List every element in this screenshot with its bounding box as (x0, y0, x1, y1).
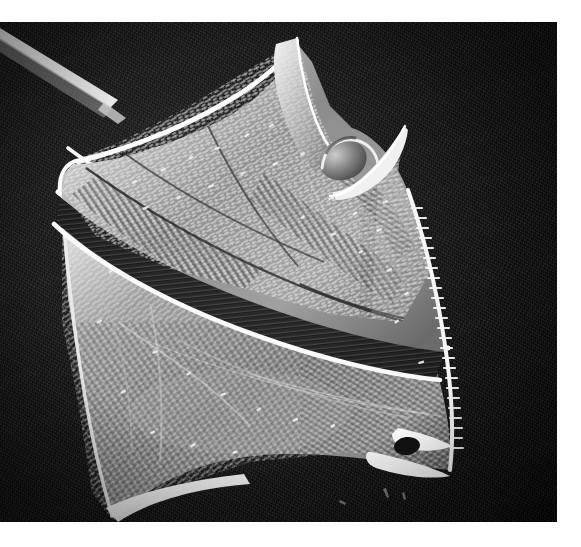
page-margin-bottom (0, 522, 581, 547)
page-margin-right (557, 0, 581, 547)
micrograph-plate (0, 22, 557, 522)
plate-vignette (0, 22, 557, 522)
page-margin-top (0, 0, 581, 22)
page-background (0, 0, 581, 547)
